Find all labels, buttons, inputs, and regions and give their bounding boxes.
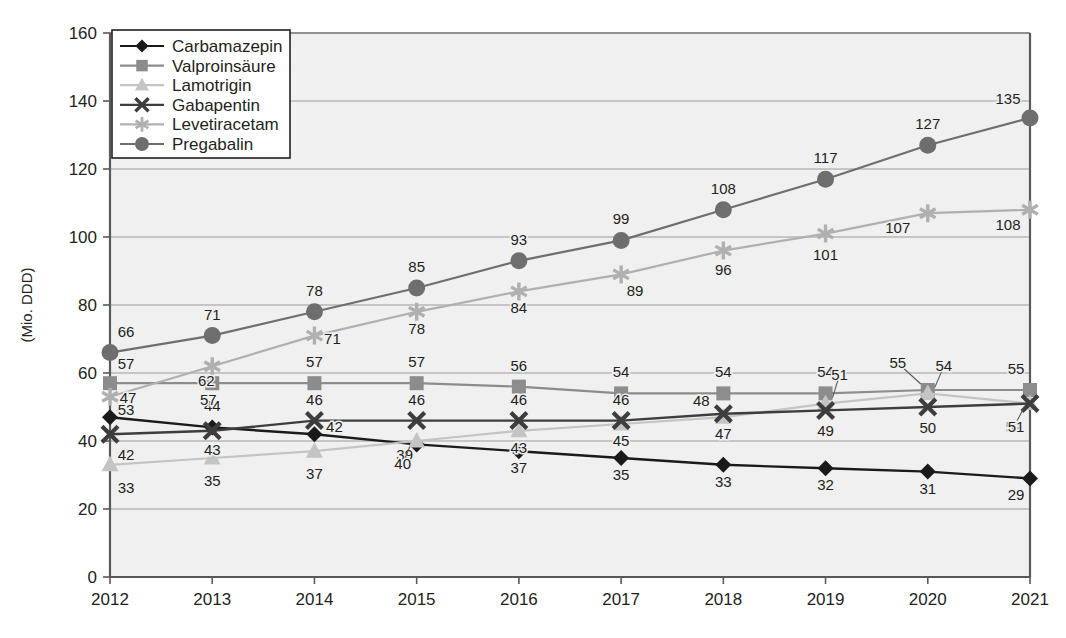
legend-label: Carbamazepin	[172, 37, 283, 56]
y-tick-label: 100	[69, 228, 97, 247]
data-value-label: 54	[715, 363, 732, 380]
data-value-label: 53	[118, 401, 135, 418]
data-value-label: 35	[613, 466, 630, 483]
line-chart: 0204060801001201401602012201320142015201…	[0, 0, 1066, 638]
legend-label: Gabapentin	[172, 96, 260, 115]
legend-label: Pregabalin	[172, 135, 253, 154]
data-point-circle	[204, 327, 221, 344]
data-value-label: 51	[831, 366, 848, 383]
data-value-label: 54	[935, 357, 952, 374]
legend-label: Levetiracetam	[172, 115, 279, 134]
data-value-label: 46	[613, 391, 630, 408]
data-value-label: 33	[118, 479, 135, 496]
data-value-label: 42	[118, 446, 135, 463]
data-point-circle	[306, 303, 323, 320]
data-value-label: 56	[511, 357, 528, 374]
data-point-circle	[1022, 110, 1039, 127]
data-value-label: 45	[613, 432, 630, 449]
data-value-label: 57	[118, 355, 135, 372]
data-value-label: 107	[885, 219, 910, 236]
data-value-label: 49	[817, 422, 834, 439]
data-value-label: 71	[204, 306, 221, 323]
y-tick-label: 0	[88, 568, 97, 587]
data-value-label: 40	[394, 455, 411, 472]
x-tick-label: 2013	[193, 590, 231, 609]
legend: CarbamazepinValproinsäureLamotriginGabap…	[112, 30, 290, 158]
x-tick-label: 2019	[807, 590, 845, 609]
x-tick-label: 2021	[1011, 590, 1049, 609]
data-point-square	[136, 60, 147, 71]
y-tick-label: 140	[69, 92, 97, 111]
y-tick-label: 120	[69, 160, 97, 179]
data-value-label: 48	[693, 392, 710, 409]
data-value-label: 37	[306, 465, 323, 482]
data-value-label: 96	[715, 261, 732, 278]
data-value-label: 32	[817, 476, 834, 493]
data-value-label: 55	[889, 354, 906, 371]
legend-label: Lamotrigin	[172, 76, 251, 95]
data-value-label: 46	[511, 391, 528, 408]
data-value-label: 43	[204, 441, 221, 458]
data-point-circle	[102, 344, 119, 361]
data-value-label: 108	[711, 180, 736, 197]
data-value-label: 42	[326, 418, 343, 435]
y-tick-label: 60	[78, 364, 97, 383]
data-value-label: 50	[919, 419, 936, 436]
x-tick-label: 2016	[500, 590, 538, 609]
data-value-label: 78	[306, 282, 323, 299]
data-value-label: 47	[715, 425, 732, 442]
data-value-label: 89	[627, 282, 644, 299]
data-point-circle	[817, 171, 834, 188]
y-tick-label: 20	[78, 500, 97, 519]
data-value-label: 101	[813, 246, 838, 263]
data-point-circle	[510, 252, 527, 269]
data-point-circle	[919, 137, 936, 154]
data-point-square	[716, 386, 730, 400]
x-tick-label: 2012	[91, 590, 129, 609]
data-value-label: 46	[408, 391, 425, 408]
data-value-label: 93	[511, 231, 528, 248]
data-value-label: 57	[408, 353, 425, 370]
chart-container: 0204060801001201401602012201320142015201…	[0, 0, 1066, 638]
data-value-label: 57	[306, 353, 323, 370]
data-point-square	[410, 376, 424, 390]
data-value-label: 57	[200, 391, 217, 408]
data-value-label: 33	[715, 473, 732, 490]
data-value-label: 135	[995, 90, 1020, 107]
data-value-label: 99	[613, 210, 630, 227]
data-value-label: 43	[511, 439, 528, 456]
y-axis-title: (Mio. DDD)	[18, 268, 35, 343]
data-value-label: 117	[814, 149, 838, 166]
data-value-label: 85	[408, 258, 425, 275]
data-value-label: 66	[118, 323, 135, 340]
x-tick-label: 2015	[398, 590, 436, 609]
x-tick-label: 2018	[704, 590, 742, 609]
data-point-circle	[408, 280, 425, 297]
legend-label: Valproinsäure	[172, 57, 276, 76]
data-point-circle	[715, 201, 732, 218]
data-value-label: 127	[915, 115, 940, 132]
data-value-label: 31	[919, 480, 936, 497]
data-value-label: 35	[204, 472, 221, 489]
y-tick-label: 80	[78, 296, 97, 315]
x-axis-labels: 2012201320142015201620172018201920202021	[91, 577, 1049, 609]
x-tick-label: 2020	[909, 590, 947, 609]
data-point-circle	[613, 232, 630, 249]
data-value-label: 55	[1008, 360, 1025, 377]
x-tick-label: 2014	[296, 590, 334, 609]
data-value-label: 51	[1008, 418, 1025, 435]
data-value-label: 84	[511, 299, 528, 316]
data-point-circle	[135, 137, 149, 151]
data-value-label: 46	[306, 391, 323, 408]
data-point-square	[307, 376, 321, 390]
data-value-label: 78	[408, 320, 425, 337]
x-tick-label: 2017	[602, 590, 640, 609]
data-value-label: 71	[324, 330, 341, 347]
y-tick-label: 160	[69, 24, 97, 43]
data-value-label: 29	[1008, 486, 1025, 503]
data-value-label: 54	[613, 363, 630, 380]
data-value-label: 108	[995, 216, 1020, 233]
data-value-label: 37	[511, 459, 528, 476]
data-value-label: 62	[198, 372, 215, 389]
y-tick-label: 40	[78, 432, 97, 451]
